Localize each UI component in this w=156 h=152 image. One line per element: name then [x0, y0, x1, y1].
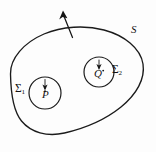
sigma2-subscript: 2: [118, 69, 122, 77]
label-point-q: Q: [94, 68, 102, 79]
outward-normal-arrow: [59, 11, 72, 38]
sigma1-subscript: 1: [21, 88, 25, 96]
label-point-p: P: [42, 89, 49, 100]
outer-surface-boundary: [10, 27, 143, 134]
label-inner-surface-2: Σ2: [112, 64, 122, 76]
point-q-marker: [102, 70, 104, 72]
label-inner-surface-1: Σ1: [15, 83, 25, 95]
label-outer-surface: S: [131, 24, 137, 35]
figure-canvas: S Σ1 Σ2 P Q: [0, 0, 156, 152]
